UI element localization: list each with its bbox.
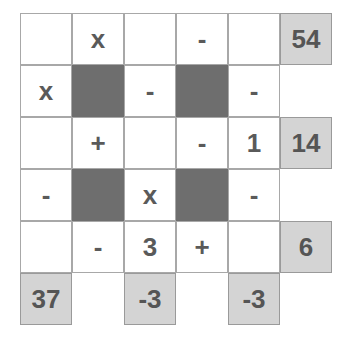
puzzle-cell[interactable] bbox=[124, 13, 176, 65]
puzzle-cell[interactable] bbox=[20, 221, 72, 273]
puzzle-cell[interactable] bbox=[20, 117, 72, 169]
result-cell: -3 bbox=[124, 273, 176, 325]
puzzle-cell[interactable] bbox=[228, 221, 280, 273]
blocked-cell bbox=[72, 169, 124, 221]
puzzle-cell[interactable]: - bbox=[124, 65, 176, 117]
puzzle-cell[interactable]: - bbox=[176, 117, 228, 169]
puzzle-cell[interactable]: - bbox=[20, 169, 72, 221]
blocked-cell bbox=[176, 169, 228, 221]
empty-slot bbox=[176, 273, 228, 325]
blocked-cell bbox=[176, 65, 228, 117]
puzzle-cell[interactable] bbox=[20, 13, 72, 65]
empty-slot bbox=[280, 273, 332, 325]
empty-slot bbox=[72, 273, 124, 325]
puzzle-cell[interactable] bbox=[228, 13, 280, 65]
puzzle-cell[interactable]: + bbox=[72, 117, 124, 169]
result-cell: 37 bbox=[20, 273, 72, 325]
blocked-cell bbox=[72, 65, 124, 117]
puzzle-cell[interactable]: - bbox=[72, 221, 124, 273]
puzzle-cell[interactable]: x bbox=[72, 13, 124, 65]
puzzle-cell[interactable]: x bbox=[20, 65, 72, 117]
puzzle-cell[interactable]: - bbox=[176, 13, 228, 65]
puzzle-cell[interactable]: + bbox=[176, 221, 228, 273]
result-cell: 54 bbox=[280, 13, 332, 65]
puzzle-grid-container: x-54x--+-114-x--3+637-3-3 bbox=[0, 0, 350, 345]
result-cell: -3 bbox=[228, 273, 280, 325]
result-cell: 6 bbox=[280, 221, 332, 273]
puzzle-cell[interactable] bbox=[124, 117, 176, 169]
puzzle-cell[interactable]: x bbox=[124, 169, 176, 221]
puzzle-cell[interactable]: 1 bbox=[228, 117, 280, 169]
puzzle-cell[interactable]: - bbox=[228, 169, 280, 221]
puzzle-cell[interactable]: 3 bbox=[124, 221, 176, 273]
puzzle-cell[interactable]: - bbox=[228, 65, 280, 117]
result-cell: 14 bbox=[280, 117, 332, 169]
empty-slot bbox=[280, 169, 332, 221]
math-puzzle-grid: x-54x--+-114-x--3+637-3-3 bbox=[20, 13, 332, 325]
empty-slot bbox=[280, 65, 332, 117]
